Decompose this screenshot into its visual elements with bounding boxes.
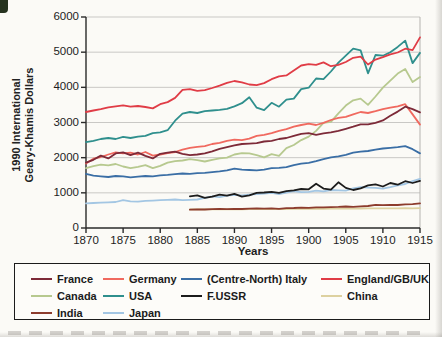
y-tick-label-4000: 4000 [35, 80, 79, 92]
y-axis-title-line2: Geary-Khamis Dollars [23, 68, 35, 183]
book-figure: 0100020003000400050006000187018751880188… [0, 0, 442, 337]
legend-item-china: China [321, 290, 429, 302]
y-tick-label-3000: 3000 [35, 116, 79, 128]
legend-swatch [181, 295, 202, 297]
y-tick-label-6000: 6000 [35, 10, 79, 22]
legend-label: USA [129, 290, 152, 302]
page-corner-mark [0, 0, 8, 13]
page-shadow-bottom [0, 332, 442, 337]
legend-label: Germany [129, 273, 177, 285]
series-line-japan [86, 179, 420, 204]
series-line-usa [86, 41, 420, 143]
y-tick-label-2000: 2000 [35, 151, 79, 163]
legend-label: (Centre-North) Italy [207, 273, 307, 285]
legend-swatch [31, 278, 52, 280]
legend-swatch [181, 278, 202, 280]
chart-legend: FranceGermany(Centre-North) ItalyEngland… [14, 263, 430, 320]
legend-swatch [321, 295, 342, 297]
legend-grid: FranceGermany(Centre-North) ItalyEngland… [31, 271, 429, 321]
legend-swatch [321, 278, 342, 280]
legend-item-canada: Canada [31, 290, 103, 302]
legend-item-f-ussr: F.USSR [181, 290, 321, 302]
series-line-england-gb-uk [86, 37, 420, 112]
legend-label: F.USSR [207, 290, 246, 302]
legend-label: England/GB/UK [347, 273, 429, 285]
legend-swatch [103, 295, 124, 297]
legend-swatch [103, 312, 124, 314]
legend-item-germany: Germany [103, 273, 181, 285]
series-line-f-ussr [190, 181, 420, 198]
legend-label: France [57, 273, 93, 285]
legend-label: China [347, 290, 378, 302]
legend-item-centre-north-italy: (Centre-North) Italy [181, 273, 321, 285]
y-axis-title-line1: 1990 International [10, 78, 22, 172]
page-shadow-right [435, 0, 442, 337]
legend-swatch [31, 295, 52, 297]
legend-label: India [57, 307, 83, 319]
y-tick-label-1000: 1000 [35, 186, 79, 198]
series-line-centre-north-italy [86, 146, 420, 177]
legend-item-usa: USA [103, 290, 181, 302]
legend-label: Canada [57, 290, 97, 302]
legend-swatch [103, 278, 124, 280]
y-tick-label-0: 0 [35, 221, 79, 233]
legend-label: Japan [129, 307, 161, 319]
x-axis-title: Years [86, 245, 420, 257]
legend-swatch [31, 312, 52, 314]
legend-item-england-gb-uk: England/GB/UK [321, 273, 429, 285]
y-axis-title: 1990 International Geary-Khamis Dollars [10, 50, 36, 200]
legend-item-india: India [31, 307, 103, 319]
legend-item-japan: Japan [103, 307, 181, 319]
y-tick-label-5000: 5000 [35, 45, 79, 57]
legend-item-france: France [31, 273, 103, 285]
